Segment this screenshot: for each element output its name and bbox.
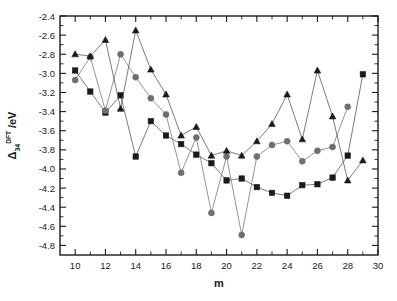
data-point-square bbox=[345, 153, 350, 158]
data-point-circle bbox=[178, 170, 184, 176]
y-tick-label: -4.8 bbox=[39, 240, 55, 251]
data-point-circle bbox=[269, 142, 275, 148]
x-tick-label: 20 bbox=[221, 260, 232, 271]
data-point-square bbox=[269, 190, 274, 195]
y-tick-label: -4.6 bbox=[39, 221, 55, 232]
data-point-circle bbox=[284, 138, 290, 144]
data-point-circle bbox=[118, 51, 124, 57]
data-point-circle bbox=[239, 232, 245, 238]
data-point-square bbox=[209, 161, 214, 166]
data-point-square bbox=[133, 154, 138, 159]
data-point-circle bbox=[72, 77, 78, 83]
y-tick-label: -2.6 bbox=[39, 30, 55, 41]
chart-figure: 1012141618202224262830-2.4-2.6-2.8-3.0-3… bbox=[0, 0, 397, 301]
x-tick-label: 12 bbox=[100, 260, 111, 271]
y-tick-label: -3.4 bbox=[39, 106, 55, 117]
data-point-square bbox=[163, 133, 168, 138]
data-point-circle bbox=[254, 154, 260, 160]
x-tick-label: 30 bbox=[373, 260, 384, 271]
data-point-square bbox=[224, 178, 229, 183]
y-tick-label: -2.4 bbox=[39, 11, 55, 22]
x-tick-label: 26 bbox=[312, 260, 323, 271]
y-tick-label: -3.8 bbox=[39, 144, 55, 155]
y-tick-label: -4.2 bbox=[39, 183, 55, 194]
delta-glyph: Δ bbox=[6, 151, 18, 159]
delta-unit: /eV bbox=[6, 111, 18, 131]
y-tick-label: -4.0 bbox=[39, 163, 55, 174]
data-point-circle bbox=[299, 158, 305, 164]
x-tick-label: 22 bbox=[252, 260, 263, 271]
data-point-circle bbox=[193, 134, 199, 140]
y-tick-label: -3.6 bbox=[39, 125, 55, 136]
delta-subscript: 34 bbox=[14, 144, 21, 152]
data-point-square bbox=[284, 193, 289, 198]
data-point-square bbox=[315, 182, 320, 187]
x-axis-title: m bbox=[214, 277, 224, 289]
x-tick-label: 16 bbox=[161, 260, 172, 271]
x-tick-label: 24 bbox=[282, 260, 293, 271]
chart-plot-area: 1012141618202224262830-2.4-2.6-2.8-3.0-3… bbox=[0, 0, 397, 301]
data-point-square bbox=[330, 175, 335, 180]
data-point-square bbox=[239, 176, 244, 181]
data-point-circle bbox=[208, 210, 214, 216]
data-point-square bbox=[360, 72, 365, 77]
data-point-circle bbox=[345, 104, 351, 110]
data-point-square bbox=[72, 68, 77, 73]
delta-superscript: DFT bbox=[5, 131, 12, 144]
y-tick-label: -3.2 bbox=[39, 87, 55, 98]
y-tick-label: -3.0 bbox=[39, 68, 55, 79]
x-tick-label: 14 bbox=[130, 260, 141, 271]
x-tick-label: 10 bbox=[70, 260, 81, 271]
y-tick-label: -2.8 bbox=[39, 49, 55, 60]
data-point-square bbox=[300, 183, 305, 188]
data-point-circle bbox=[330, 144, 336, 150]
x-tick-label: 18 bbox=[191, 260, 202, 271]
data-point-square bbox=[178, 141, 183, 146]
data-point-square bbox=[148, 118, 153, 123]
data-point-circle bbox=[148, 95, 154, 101]
data-point-square bbox=[88, 89, 93, 94]
data-point-square bbox=[254, 184, 259, 189]
data-point-circle bbox=[163, 111, 169, 117]
data-point-circle bbox=[102, 108, 108, 114]
data-point-circle bbox=[314, 148, 320, 154]
data-point-circle bbox=[133, 74, 139, 80]
data-point-circle bbox=[224, 154, 230, 160]
x-tick-label: 28 bbox=[342, 260, 353, 271]
y-tick-label: -4.4 bbox=[39, 202, 55, 213]
data-point-square bbox=[194, 152, 199, 157]
